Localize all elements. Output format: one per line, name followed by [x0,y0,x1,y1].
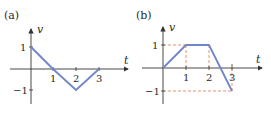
y-axis-label: v [169,21,176,34]
xtick-3: 3 [96,73,102,84]
series-line [31,47,99,90]
panel-a-label: (a) [4,9,19,22]
panel-b: (b) v t 1 −1 1 2 3 [136,9,262,104]
ytick-neg1: −1 [13,85,28,96]
ytick-1: 1 [152,40,158,51]
ytick-neg1: −1 [145,86,160,97]
x-axis-label: t [124,54,129,67]
panel-b-label: (b) [136,9,152,22]
ytick-1: 1 [20,42,26,53]
panel-a: (a) v t 1 −1 1 2 3 [4,9,129,104]
xtick-1: 1 [50,73,56,84]
y-axis-label: v [37,23,44,36]
xtick-1: 1 [183,72,189,83]
xtick-3: 3 [229,72,235,83]
x-axis-label: t [256,53,261,66]
xtick-2: 2 [73,73,79,84]
figure: (a) v t 1 −1 1 2 3 (b) v t [0,0,271,117]
xtick-2: 2 [206,72,212,83]
